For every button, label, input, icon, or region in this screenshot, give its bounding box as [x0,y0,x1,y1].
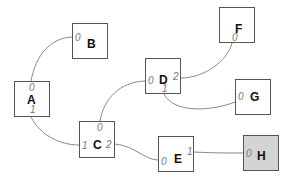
node-b[interactable]: 0 B [72,23,108,59]
node-c[interactable]: 0 1 C 2 [79,121,115,158]
edge-a1-c1 [31,117,79,145]
node-g-port-left[interactable]: 0 [238,92,244,102]
node-e-port-right[interactable]: 1 [187,147,193,157]
diagram-canvas: A 0 1 0 B 0 1 C 2 0 D 2 1 0 E 1 F 0 0 G … [0,0,293,183]
node-c-port-top[interactable]: 0 [97,123,103,133]
node-g-label: G [250,91,259,103]
node-h-port-left[interactable]: 0 [246,149,252,159]
node-e-label: E [174,153,182,165]
edge-c2-e0 [115,144,158,160]
edge-d1-g0 [164,94,235,109]
node-a-port-bottom[interactable]: 1 [30,105,36,115]
node-b-label: B [87,38,96,50]
node-b-port-left[interactable]: 0 [75,33,81,43]
node-c-port-right[interactable]: 2 [106,140,112,150]
node-h-label: H [257,150,266,162]
node-c-port-left[interactable]: 1 [82,141,88,151]
node-c-label: C [93,139,102,151]
edge-a0-b0 [31,37,72,81]
node-d[interactable]: 0 D 2 1 [145,58,181,94]
node-e[interactable]: 0 E 1 [158,136,194,172]
edge-d2-f0 [181,43,232,78]
edge-c0-d0 [100,81,145,121]
node-f-port-bottom[interactable]: 0 [232,33,238,43]
node-a[interactable]: A 0 1 [14,81,50,117]
node-d-port-bottom[interactable]: 1 [162,84,168,94]
node-d-port-right[interactable]: 2 [173,72,179,82]
node-a-port-top[interactable]: 0 [29,83,35,93]
node-h[interactable]: 0 H [243,135,279,171]
edge-e1-h0 [194,152,243,153]
node-d-port-left[interactable]: 0 [148,76,154,86]
node-f[interactable]: F 0 [219,7,255,43]
node-e-port-left[interactable]: 0 [161,157,167,167]
node-g[interactable]: 0 G [235,79,271,115]
